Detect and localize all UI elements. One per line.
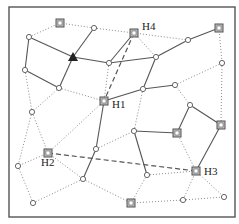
node-square-n19 bbox=[173, 129, 181, 137]
node-square-n0 bbox=[56, 19, 64, 27]
node-circle-n1 bbox=[91, 25, 96, 30]
node-circle-n13 bbox=[172, 82, 177, 87]
node-square-n27 bbox=[127, 199, 135, 207]
square-inner bbox=[102, 99, 106, 103]
square-inner bbox=[58, 21, 62, 25]
square-inner bbox=[217, 26, 221, 30]
hub-node-h3 bbox=[192, 167, 200, 175]
square-inner bbox=[219, 123, 223, 127]
square-inner bbox=[175, 131, 179, 135]
node-circle-n28 bbox=[180, 197, 185, 202]
label-h2: H2 bbox=[41, 156, 54, 168]
label-h1: H1 bbox=[112, 98, 125, 110]
square-inner bbox=[129, 201, 133, 205]
node-circle-n11 bbox=[56, 85, 61, 90]
node-circle-n4 bbox=[26, 34, 31, 39]
hub-node-h4 bbox=[130, 29, 138, 37]
network-diagram: H4H1H2H3 bbox=[0, 0, 239, 224]
node-circle-n9 bbox=[219, 60, 224, 65]
node-circle-n5 bbox=[185, 37, 190, 42]
node-circle-n26 bbox=[30, 200, 35, 205]
node-square-n17 bbox=[217, 121, 225, 129]
square-inner bbox=[132, 31, 136, 35]
node-circle-n15 bbox=[29, 109, 34, 114]
node-circle-n22 bbox=[15, 163, 20, 168]
node-circle-n12 bbox=[140, 86, 145, 91]
label-h4: H4 bbox=[142, 20, 156, 32]
node-circle-n16 bbox=[187, 102, 192, 107]
node-circle-n18 bbox=[131, 128, 136, 133]
square-inner bbox=[194, 169, 198, 173]
node-circle-n8 bbox=[153, 54, 158, 59]
node-circle-n25 bbox=[144, 172, 149, 177]
square-inner bbox=[46, 151, 50, 155]
node-circle-n24 bbox=[80, 176, 85, 181]
hub-node-h1 bbox=[100, 97, 108, 105]
node-circle-n10 bbox=[22, 67, 27, 72]
node-circle-n20 bbox=[93, 146, 98, 151]
node-square-n3 bbox=[215, 24, 223, 32]
label-h3: H3 bbox=[204, 165, 218, 177]
node-circle-n7 bbox=[106, 60, 111, 65]
node-circle-n29 bbox=[221, 194, 226, 199]
